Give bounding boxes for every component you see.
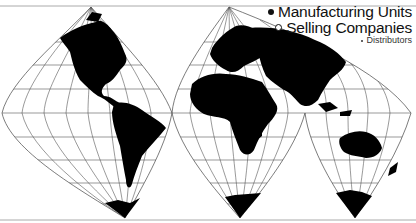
australia bbox=[339, 131, 382, 158]
legend-label: Selling Companies bbox=[286, 20, 412, 36]
lobe-americas bbox=[0, 7, 180, 218]
legend-label: Manufacturing Units bbox=[278, 4, 412, 20]
south-america bbox=[112, 102, 166, 187]
open-circle-icon bbox=[275, 24, 282, 31]
africa bbox=[190, 73, 277, 154]
filled-circle-icon bbox=[268, 9, 274, 15]
legend-item-distributors: Distributors bbox=[268, 36, 412, 45]
legend-item-selling: Selling Companies bbox=[268, 20, 412, 36]
legend: Manufacturing Units Selling Companies Di… bbox=[268, 4, 412, 45]
small-dot-icon bbox=[361, 40, 363, 42]
legend-label: Distributors bbox=[366, 36, 412, 45]
legend-item-manufacturing: Manufacturing Units bbox=[268, 4, 412, 20]
north-america bbox=[60, 21, 127, 109]
